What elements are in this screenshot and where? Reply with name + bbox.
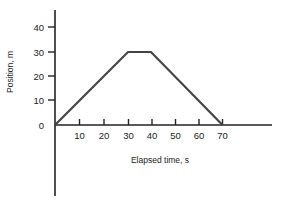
x-tick-label-60: 60 — [194, 130, 205, 141]
y-tick-labels: 40 30 20 10 0 — [33, 22, 44, 131]
x-tick-label-70: 70 — [217, 130, 228, 141]
x-axis-title: Elapsed time, s — [131, 155, 189, 165]
x-tick-label-30: 30 — [123, 130, 134, 141]
position-time-chart: 40 30 20 10 0 10 20 30 40 50 60 70 Elaps… — [0, 0, 286, 206]
x-tick-label-40: 40 — [147, 130, 158, 141]
y-tick-label-20: 20 — [33, 71, 44, 82]
y-tick-label-30: 30 — [33, 47, 44, 58]
x-ticks — [80, 119, 223, 125]
y-ticks — [48, 27, 55, 100]
position-series-line — [55, 52, 223, 125]
y-tick-label-10: 10 — [33, 95, 44, 106]
x-tick-label-20: 20 — [99, 130, 110, 141]
x-tick-label-10: 10 — [74, 130, 85, 141]
y-axis-title: Position, m — [5, 51, 15, 93]
y-tick-label-0: 0 — [39, 120, 44, 131]
y-tick-label-40: 40 — [33, 22, 44, 33]
x-tick-label-50: 50 — [170, 130, 181, 141]
x-tick-labels: 10 20 30 40 50 60 70 — [74, 130, 228, 141]
